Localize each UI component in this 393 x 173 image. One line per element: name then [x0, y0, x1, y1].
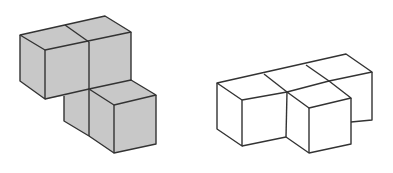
- diagram-canvas: [0, 0, 393, 173]
- unshaded-cube-structure: [217, 54, 372, 153]
- shaded-cube-structure: [20, 16, 156, 153]
